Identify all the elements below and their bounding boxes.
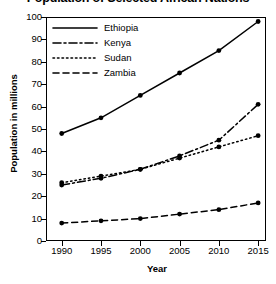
legend-line-sample-icon [52, 35, 98, 50]
data-point-ethiopia [59, 131, 64, 136]
data-point-sudan [216, 145, 221, 150]
data-point-ethiopia [138, 93, 143, 98]
x-axis-tick-mark [140, 241, 141, 246]
data-point-ethiopia [99, 115, 104, 120]
legend-label: Zambia [104, 67, 136, 78]
data-point-sudan [59, 180, 64, 185]
data-point-zambia [59, 221, 64, 226]
y-axis-tick-label: 50 [2, 124, 42, 134]
legend-item-ethiopia: Ethiopia [52, 20, 164, 35]
chart-title: Population of Selected African Nations [0, 0, 276, 5]
y-axis-tick-label: 80 [2, 57, 42, 67]
legend-label: Kenya [104, 37, 131, 48]
legend-line-sample-icon [52, 65, 98, 80]
y-axis-tick-label: 100 [2, 12, 42, 22]
x-axis-tick-mark [219, 241, 220, 246]
y-axis-tick-mark [41, 241, 46, 242]
legend-item-zambia: Zambia [52, 65, 164, 80]
x-axis-tick-mark [101, 241, 102, 246]
data-point-sudan [256, 133, 261, 138]
series-line-zambia [62, 203, 258, 223]
legend-label: Sudan [104, 52, 131, 63]
y-axis-tick-label: 60 [2, 102, 42, 112]
data-point-zambia [138, 216, 143, 221]
x-axis-tick-label: 2015 [235, 246, 276, 256]
data-point-zambia [177, 212, 182, 217]
x-axis-tick-mark [258, 241, 259, 246]
chart-container: Population of Selected African Nations P… [0, 0, 276, 284]
data-point-ethiopia [216, 48, 221, 53]
y-axis-tick-label: 10 [2, 214, 42, 224]
chart-legend: EthiopiaKenyaSudanZambia [52, 20, 164, 80]
legend-line-sample-icon [52, 20, 98, 35]
data-point-sudan [99, 174, 104, 179]
data-point-ethiopia [177, 71, 182, 76]
y-axis-tick-label: 30 [2, 169, 42, 179]
data-point-kenya [256, 102, 261, 107]
legend-line-sample-icon [52, 50, 98, 65]
y-axis-tick-label: 0 [2, 236, 42, 246]
y-axis-tick-label: 70 [2, 79, 42, 89]
legend-item-sudan: Sudan [52, 50, 164, 65]
x-axis-tick-mark [180, 241, 181, 246]
data-point-sudan [138, 167, 143, 172]
y-axis-tick-label: 20 [2, 191, 42, 201]
legend-item-kenya: Kenya [52, 35, 164, 50]
x-axis-tick-mark [62, 241, 63, 246]
y-axis-tick-label: 40 [2, 146, 42, 156]
series-line-sudan [62, 136, 258, 183]
data-point-sudan [177, 156, 182, 161]
y-axis-tick-label: 90 [2, 34, 42, 44]
data-point-zambia [256, 201, 261, 206]
data-point-zambia [216, 207, 221, 212]
legend-label: Ethiopia [104, 22, 138, 33]
data-point-kenya [216, 138, 221, 143]
data-point-ethiopia [256, 19, 261, 24]
x-axis-title: Year [44, 263, 270, 274]
data-point-zambia [99, 218, 104, 223]
